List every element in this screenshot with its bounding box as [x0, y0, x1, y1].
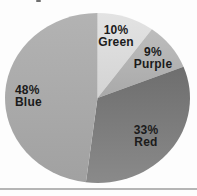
- bottom-rule-line: [0, 188, 197, 190]
- slice-label-green: 10% Green: [98, 24, 134, 48]
- cutoff-text-speck: [36, 0, 41, 2]
- slice-label-purple: 9% Purple: [134, 46, 173, 70]
- pie-chart-figure: 10% Green 9% Purple 48% Blue 33% Red: [0, 0, 197, 196]
- slice-name-green: Green: [98, 36, 134, 48]
- slice-name-blue: Blue: [15, 96, 42, 108]
- slice-name-red: Red: [134, 136, 159, 148]
- slice-label-blue: 48% Blue: [15, 84, 42, 108]
- slice-label-red: 33% Red: [134, 124, 159, 148]
- slice-name-purple: Purple: [134, 58, 173, 70]
